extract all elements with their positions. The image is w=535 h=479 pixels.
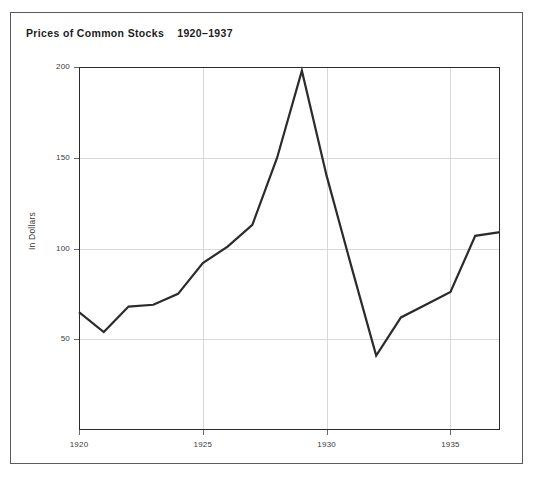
x-axis-tick: [203, 430, 204, 435]
y-axis-tick: [74, 339, 79, 340]
x-axis-tick: [450, 430, 451, 435]
y-axis-tick: [74, 67, 79, 68]
y-axis-tick-label: 150: [56, 153, 70, 162]
x-axis-tick-label: 1920: [70, 440, 89, 449]
x-axis-tick-label: 1935: [441, 440, 460, 449]
y-axis-tick-label: 100: [56, 244, 70, 253]
plot-area: [79, 67, 500, 430]
y-axis-tick: [74, 249, 79, 250]
y-axis-title: In Dollars: [27, 212, 37, 250]
chart-page: Prices of Common Stocks 1920–1937 In Dol…: [0, 0, 535, 479]
data-series-line: [79, 67, 500, 430]
y-axis-tick-label: 50: [61, 334, 70, 343]
chart-title: Prices of Common Stocks 1920–1937: [26, 27, 233, 39]
x-axis-tick-label: 1930: [317, 440, 336, 449]
x-axis-tick: [79, 430, 80, 435]
y-axis-tick: [74, 158, 79, 159]
x-axis-tick: [327, 430, 328, 435]
x-axis-tick-label: 1925: [194, 440, 213, 449]
y-axis-tick-label: 200: [56, 62, 70, 71]
